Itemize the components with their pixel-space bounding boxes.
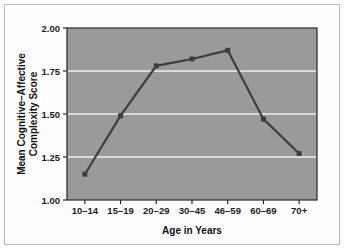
- x-axis-title: Age in Years: [162, 225, 222, 236]
- data-point-marker: [154, 63, 159, 68]
- data-point-marker: [190, 56, 195, 61]
- data-point-marker: [297, 151, 302, 156]
- y-tick-label: 1.75: [42, 66, 61, 77]
- y-axis-title: Mean Cognitive–Affective Complexity Scor…: [16, 53, 39, 175]
- y-tick-label: 1.25: [42, 152, 61, 163]
- y-axis: 1.001.251.501.752.00: [42, 23, 68, 206]
- x-tick-label: 10–14: [72, 205, 99, 216]
- x-tick-label: 30–45: [179, 205, 206, 216]
- line-chart: 1.001.251.501.752.00 10–1415–1920–2930–4…: [5, 5, 339, 244]
- x-tick-label: 46–59: [215, 205, 241, 216]
- data-point-marker: [225, 48, 230, 53]
- x-tick-label: 15–19: [107, 205, 133, 216]
- x-tick-label: 70+: [291, 205, 308, 216]
- data-point-marker: [118, 113, 123, 118]
- figure: 1.001.251.501.752.00 10–1415–1920–2930–4…: [0, 0, 344, 249]
- y-tick-label: 2.00: [42, 23, 61, 34]
- y-axis-title-line2: Complexity Score: [28, 71, 39, 156]
- x-tick-label: 60–69: [250, 205, 276, 216]
- x-axis: 10–1415–1920–2930–4546–5960–6970+: [72, 200, 308, 216]
- x-tick-label: 20–29: [143, 205, 169, 216]
- y-axis-title-line1: Mean Cognitive–Affective: [16, 53, 27, 175]
- y-tick-label: 1.50: [42, 109, 61, 120]
- figure-frame: 1.001.251.501.752.00 10–1415–1920–2930–4…: [4, 4, 340, 245]
- data-point-marker: [82, 172, 87, 177]
- y-tick-label: 1.00: [42, 195, 61, 206]
- data-point-marker: [261, 117, 266, 122]
